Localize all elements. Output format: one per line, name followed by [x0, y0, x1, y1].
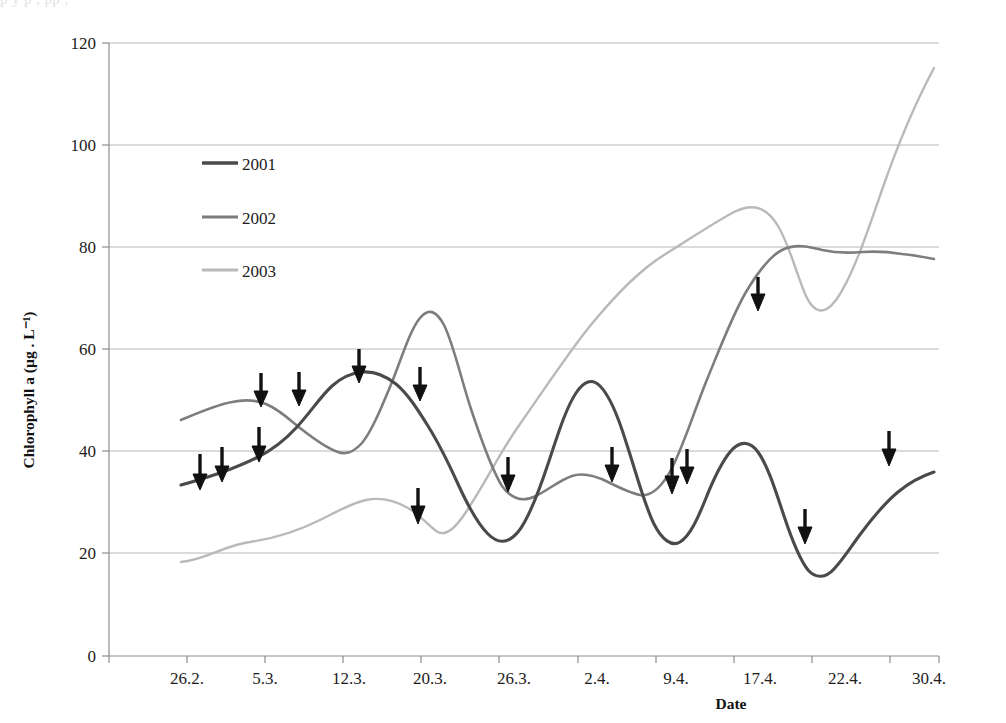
x-axis-labels: 26.2. 5.3. 12.3. 20.3. 26.3. 2.4. 9.4. 1…: [170, 669, 946, 688]
x-label-8: 22.4.: [828, 669, 862, 688]
y-label-80: 80: [79, 238, 96, 257]
x-label-1: 5.3.: [252, 669, 278, 688]
y-label-20: 20: [79, 544, 96, 563]
x-label-6: 9.4.: [663, 669, 689, 688]
x-axis-ticks: [109, 656, 939, 663]
legend-label-2002: 2002: [242, 209, 276, 228]
y-label-60: 60: [79, 340, 96, 359]
chart-page: p y p , pp ,: [0, 0, 1006, 723]
chlorophyll-line-chart: 120 100 80 60 40 20 0 26.2. 5.3. 12.3. 2…: [0, 0, 1006, 723]
x-axis-title: Date: [716, 695, 747, 712]
x-label-0: 26.2.: [170, 669, 204, 688]
y-label-100: 100: [71, 136, 97, 155]
y-label-40: 40: [79, 442, 96, 461]
legend-label-2001: 2001: [242, 155, 276, 174]
y-label-120: 120: [71, 34, 97, 53]
y-axis-labels: 120 100 80 60 40 20 0: [71, 34, 97, 666]
x-label-2: 12.3.: [332, 669, 366, 688]
x-label-3: 20.3.: [413, 669, 447, 688]
y-label-0: 0: [88, 647, 97, 666]
x-label-9: 30.4.: [912, 669, 946, 688]
y-axis-title: Chlorophyll a (µg . L⁻¹): [20, 312, 38, 469]
scan-top-text-fragment: p y p , pp ,: [0, 0, 1006, 9]
x-label-7: 17.4.: [743, 669, 777, 688]
legend-label-2003: 2003: [242, 262, 276, 281]
y-axis-ticks: [102, 43, 109, 656]
x-label-5: 2.4.: [584, 669, 610, 688]
x-label-4: 26.3.: [497, 669, 531, 688]
